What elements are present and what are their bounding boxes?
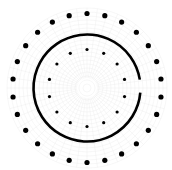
outer-dot (119, 151, 124, 156)
background-texture (7, 8, 167, 168)
outer-dot (158, 76, 163, 81)
outer-dot (154, 59, 159, 64)
inner-dot (102, 121, 105, 124)
outer-dot (23, 43, 28, 48)
inner-dot (116, 110, 119, 113)
inner-dot (55, 62, 58, 65)
outer-dot (35, 141, 40, 146)
inner-dot (116, 62, 119, 65)
inner-dot (48, 78, 51, 81)
concentric-ring-diagram (0, 0, 172, 170)
outer-dot (154, 112, 159, 117)
outer-dot (67, 158, 72, 163)
inner-dot (69, 52, 72, 55)
outer-dot (15, 59, 20, 64)
inner-dot (48, 95, 51, 98)
inner-dot (102, 52, 105, 55)
outer-dot (67, 13, 72, 18)
outer-dot (158, 94, 163, 99)
outer-dot (23, 128, 28, 133)
outer-dot (10, 94, 15, 99)
inner-dot (69, 121, 72, 124)
inner-dot (123, 78, 126, 81)
outer-dot (50, 151, 55, 156)
outer-dot (134, 141, 139, 146)
outer-dot (146, 43, 151, 48)
outer-dot (102, 13, 107, 18)
outer-dot (119, 19, 124, 24)
outer-dot (15, 112, 20, 117)
outer-dot (35, 30, 40, 35)
outer-dot (134, 30, 139, 35)
diagram-canvas (0, 0, 172, 170)
inner-dot (55, 110, 58, 113)
outer-dot (146, 128, 151, 133)
outer-dot (102, 158, 107, 163)
outer-dot (84, 11, 89, 16)
inner-dot (123, 95, 126, 98)
outer-dot (10, 76, 15, 81)
inner-dot (85, 125, 88, 128)
outer-dot (84, 160, 89, 165)
inner-dot (85, 48, 88, 51)
outer-dot (50, 19, 55, 24)
